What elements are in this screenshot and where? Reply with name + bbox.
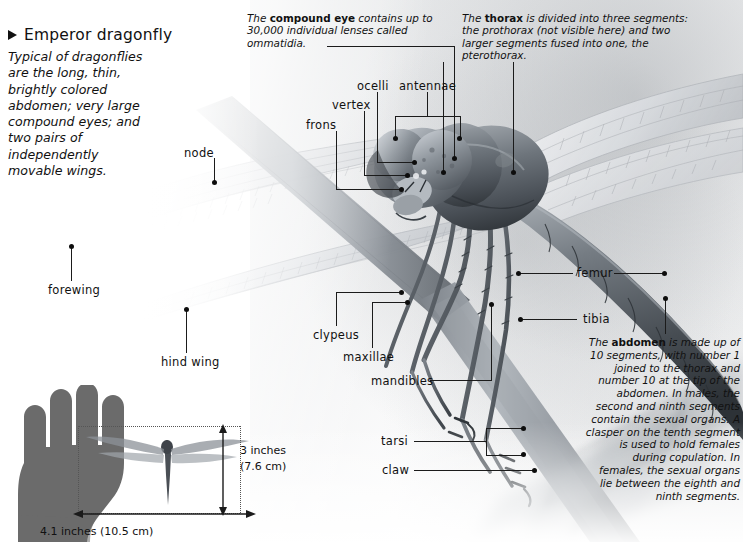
label-ocelli: ocelli xyxy=(357,79,389,93)
label-antennae: antennae xyxy=(399,79,456,93)
label-hind-wing: hind wing xyxy=(161,355,220,369)
leader-compound-eye-h xyxy=(327,46,455,47)
label-claw: claw xyxy=(382,463,409,477)
dot-femur-right xyxy=(662,271,667,276)
dot-tarsi-bottom xyxy=(521,452,526,457)
dot-tibia xyxy=(518,317,523,322)
leader-femur-right xyxy=(614,273,664,274)
leader-antennae-stem xyxy=(427,92,428,116)
label-tarsi: tarsi xyxy=(381,434,408,448)
label-vertex: vertex xyxy=(332,98,371,112)
dot-vertex xyxy=(405,173,410,178)
label-clypeus: clypeus xyxy=(313,328,359,342)
leader-thorax-right xyxy=(513,62,514,172)
callout-thorax: The thorax is divided into three segment… xyxy=(462,12,702,62)
dot-node xyxy=(212,180,217,185)
callout-abdomen-leadin: The xyxy=(589,336,612,348)
bracket-tarsi xyxy=(486,428,525,456)
dot-antennae-right xyxy=(457,136,462,141)
scale-width-label: 4.1 inches (10.5 cm) xyxy=(40,525,153,538)
label-node: node xyxy=(184,146,214,160)
label-tibia: tibia xyxy=(583,312,610,326)
scale-height-line2: (7.6 cm) xyxy=(240,460,286,473)
dot-mandibles xyxy=(489,302,494,307)
callout-compound-eye: The compound eye contains up to 30,000 i… xyxy=(247,12,462,49)
dot-hind-wing xyxy=(184,307,189,312)
width-arrow-icon xyxy=(72,503,257,525)
label-mandibles: mandibles xyxy=(371,374,433,388)
leader-vertex-v xyxy=(364,111,365,175)
leader-maxillae-h xyxy=(372,302,408,303)
callout-abdomen: The abdomen is made up of 10 segments, w… xyxy=(585,336,740,502)
leader-clypeus-h xyxy=(336,292,402,293)
leader-forewing xyxy=(71,248,72,281)
dot-tarsi-top xyxy=(521,426,526,431)
scale-box-left xyxy=(78,426,79,513)
label-forewing: forewing xyxy=(48,283,100,297)
leader-vertex-h xyxy=(364,175,408,176)
leader-compound-eye-v xyxy=(454,46,455,158)
dot-claw xyxy=(532,468,537,473)
dot-clypeus xyxy=(399,290,404,295)
dot-frons xyxy=(399,187,404,192)
leader-node xyxy=(214,158,215,182)
leader-ocelli-v xyxy=(377,92,378,162)
leader-mandibles-h xyxy=(430,380,492,381)
dot-thorax-left xyxy=(441,170,446,175)
callout-eye-leadin: The xyxy=(247,12,270,24)
title-row: Emperor dragonfly xyxy=(8,26,213,44)
callout-eye-term: compound eye xyxy=(270,12,355,24)
leader-tibia xyxy=(522,319,577,320)
bracket-antennae xyxy=(395,116,461,139)
callout-thorax-term: thorax xyxy=(485,12,523,24)
dragonfly-anatomy-diagram: Emperor dragonfly Typical of dragonflies… xyxy=(0,0,743,542)
callout-abdomen-body: is made up of 10 segments, with number 1… xyxy=(586,336,740,502)
callout-abdomen-term: abdomen xyxy=(612,336,666,348)
leader-clypeus-v xyxy=(336,292,337,326)
leader-claw xyxy=(414,470,534,471)
dot-ocelli xyxy=(412,160,417,165)
page-title: Emperor dragonfly xyxy=(24,26,172,44)
label-femur: femur xyxy=(577,266,613,280)
dot-forewing xyxy=(69,244,74,249)
leader-hind-wing xyxy=(186,311,187,353)
dot-abdomen xyxy=(663,296,668,301)
triangle-right-icon xyxy=(8,30,17,40)
label-maxillae: maxillae xyxy=(343,350,394,364)
leader-tarsi-h xyxy=(414,441,486,442)
scale-height-line1: 3 inches xyxy=(240,444,286,457)
title-block: Emperor dragonfly Typical of dragonflies… xyxy=(8,26,213,179)
leader-maxillae-v xyxy=(372,302,373,348)
dot-maxillae xyxy=(405,300,410,305)
intro-description: Typical of dragonflies are the long, thi… xyxy=(8,49,148,179)
dot-antennae-left xyxy=(393,136,398,141)
leader-mandibles-v xyxy=(491,306,492,381)
label-frons: frons xyxy=(306,118,336,132)
leader-frons-v xyxy=(336,131,337,189)
leader-femur-left xyxy=(520,273,573,274)
leader-abdomen xyxy=(665,300,666,334)
dot-thorax-right xyxy=(511,170,516,175)
dot-compound-eye xyxy=(452,156,457,161)
leader-ocelli-h xyxy=(377,162,415,163)
dot-femur-left xyxy=(516,271,521,276)
scale-comparison-diagram: 3 inches (7.6 cm) 4.1 inches (10.5 cm) xyxy=(0,385,250,542)
callout-thorax-leadin: The xyxy=(462,12,485,24)
leader-frons-h xyxy=(336,189,402,190)
